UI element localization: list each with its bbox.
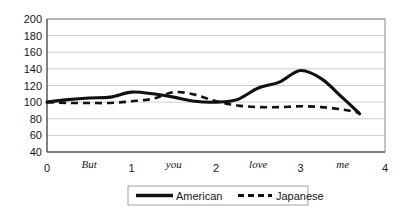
legend-label-american: American bbox=[176, 190, 222, 202]
y-tick-label-40: 40 bbox=[30, 146, 42, 158]
y-tick-label-160: 160 bbox=[24, 46, 42, 58]
legend-label-japanese: Japanese bbox=[276, 190, 324, 202]
gridlines bbox=[47, 19, 385, 152]
y-tick-label-60: 60 bbox=[30, 129, 42, 141]
chart-canvas: 200180160140120100806040 01234 Butyoulov… bbox=[0, 0, 420, 212]
chart-legend: American Japanese bbox=[128, 186, 324, 205]
y-tick-label-120: 120 bbox=[24, 80, 42, 92]
x-word-but: But bbox=[82, 158, 98, 170]
x-word-me: me bbox=[336, 158, 349, 170]
x-tick-label-0: 0 bbox=[44, 162, 50, 174]
x-tick-label-1: 1 bbox=[128, 162, 134, 174]
y-axis-tick-labels: 200180160140120100806040 bbox=[24, 13, 42, 158]
x-word-you: you bbox=[165, 158, 182, 170]
y-tick-label-100: 100 bbox=[24, 96, 42, 108]
line-chart: 200180160140120100806040 01234 Butyoulov… bbox=[0, 0, 420, 212]
data-series bbox=[47, 70, 360, 113]
x-tick-label-2: 2 bbox=[213, 162, 219, 174]
y-tick-label-200: 200 bbox=[24, 13, 42, 25]
y-tick-label-180: 180 bbox=[24, 30, 42, 42]
y-tick-label-80: 80 bbox=[30, 113, 42, 125]
y-tick-label-140: 140 bbox=[24, 63, 42, 75]
x-tick-label-4: 4 bbox=[382, 162, 388, 174]
x-word-love: love bbox=[249, 158, 267, 170]
x-tick-label-3: 3 bbox=[297, 162, 303, 174]
